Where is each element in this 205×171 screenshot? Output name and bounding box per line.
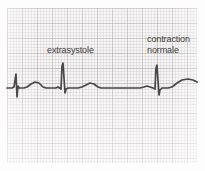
annotation-extrasystole: extrasystole [47, 45, 94, 56]
ecg-figure: extrasystole contraction normale [0, 0, 205, 171]
annotation-contraction-normale: contraction normale [147, 34, 190, 55]
paper-fade-overlay [7, 8, 197, 163]
ecg-grid-paper [7, 8, 197, 163]
